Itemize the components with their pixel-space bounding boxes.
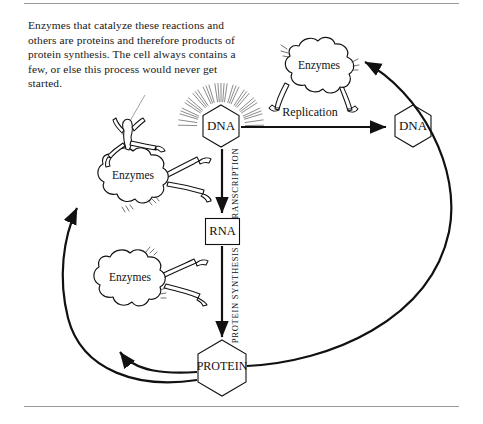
enzymes-top-right-label: Enzymes [298,59,341,72]
figure-stage: Enzymes that catalyze these reactions an… [0,0,483,424]
node-protein-label: PROTEIN [197,359,248,373]
enzymes-mid-left[interactable]: Enzymes [98,118,211,212]
enzymes-top-right[interactable]: Enzymes [269,37,359,112]
node-dna-right[interactable]: DNA [395,105,431,147]
diagram-canvas: DNA DNA Replication TRANSCRIPTION RNA PR… [0,0,483,424]
node-dna-left-label: DNA [207,118,236,133]
label-protein-synthesis: PROTEIN SYNTHESIS [230,247,240,343]
arrow-protein-to-enzymes-lowerleft [120,352,197,373]
label-replication: Replication [282,105,337,119]
node-dna-left[interactable]: DNA [203,105,239,147]
enzymes-lower-left[interactable]: Enzymes [94,247,208,306]
node-rna[interactable]: RNA [206,219,240,245]
enzymes-lower-left-label: Enzymes [109,271,152,284]
enzymes-mid-left-label: Enzymes [112,169,155,182]
label-transcription: TRANSCRIPTION [230,148,240,225]
node-rna-label: RNA [209,224,235,238]
node-protein[interactable]: PROTEIN [197,340,248,396]
